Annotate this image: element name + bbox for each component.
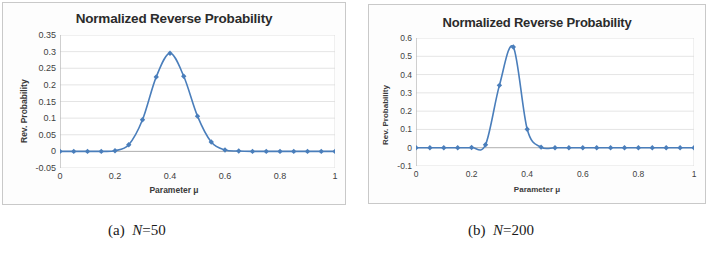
caption-b-index: (b) xyxy=(468,222,486,238)
y-axis-label-b: Rev. Probability xyxy=(381,85,390,145)
x-axis-tick-label: 0.8 xyxy=(632,169,644,179)
plot-area-b: -0.100.10.20.30.40.50.600.20.40.60.81 xyxy=(416,38,694,166)
x-axis-label-b: Parameter μ xyxy=(369,185,705,194)
y-axis-tick-label: 0 xyxy=(51,146,56,156)
y-axis-tick-label: 0.3 xyxy=(43,47,56,57)
x-axis-tick-label: 0 xyxy=(57,171,62,181)
x-axis-tick-label: 0.4 xyxy=(164,171,177,181)
y-axis-tick-label: 0.1 xyxy=(43,113,56,123)
chart-svg xyxy=(60,35,335,168)
chart-svg xyxy=(416,38,694,166)
x-axis-label-a: Parameter μ xyxy=(3,185,345,195)
y-axis-tick-label: 0.25 xyxy=(38,63,56,73)
x-axis-tick-label: 0.6 xyxy=(219,171,232,181)
plot-area-a: -0.0500.050.10.150.20.250.30.3500.20.40.… xyxy=(60,35,335,168)
y-axis-tick-label: -0.1 xyxy=(397,161,412,171)
caption-a-variable: N xyxy=(132,222,142,238)
x-axis-tick-label: 1 xyxy=(332,171,337,181)
y-axis-tick-label: 0.3 xyxy=(400,88,412,98)
figure-two-panel-charts: Normalized Reverse Probability Rev. Prob… xyxy=(0,0,706,259)
y-axis-tick-label: 0.6 xyxy=(400,33,412,43)
y-axis-tick-label: 0.5 xyxy=(400,51,412,61)
x-axis-tick-label: 0.2 xyxy=(109,171,122,181)
chart-panel-a: Normalized Reverse Probability Rev. Prob… xyxy=(2,2,346,205)
y-axis-tick-label: 0.4 xyxy=(400,70,412,80)
caption-a-index: (a) xyxy=(108,222,125,238)
x-axis-tick-label: 0.6 xyxy=(577,169,589,179)
chart-title-a: Normalized Reverse Probability xyxy=(3,11,345,26)
y-axis-tick-label: 0.15 xyxy=(38,97,56,107)
y-axis-tick-label: -0.05 xyxy=(35,163,56,173)
y-axis-tick-label: 0.2 xyxy=(400,106,412,116)
y-axis-tick-label: 0.05 xyxy=(38,130,56,140)
y-axis-tick-label: 0.2 xyxy=(43,80,56,90)
caption-a: (a) N=50 xyxy=(108,222,166,239)
caption-b-variable: N xyxy=(493,222,503,238)
chart-title-b: Normalized Reverse Probability xyxy=(369,15,705,30)
y-axis-tick-label: 0.35 xyxy=(38,30,56,40)
y-axis-label-a: Rev. Probability xyxy=(19,79,29,143)
caption-a-value: =50 xyxy=(142,222,165,238)
x-axis-tick-label: 0.4 xyxy=(521,169,533,179)
y-axis-tick-label: 0 xyxy=(407,143,412,153)
x-axis-tick-label: 0.2 xyxy=(466,169,478,179)
y-axis-tick-label: 0.1 xyxy=(400,124,412,134)
caption-b-value: =200 xyxy=(503,222,534,238)
chart-panel-b: Normalized Reverse Probability Rev. Prob… xyxy=(368,4,706,204)
x-axis-tick-label: 0 xyxy=(414,169,419,179)
x-axis-tick-label: 1 xyxy=(692,169,697,179)
caption-b: (b) N=200 xyxy=(468,222,534,239)
x-axis-tick-label: 0.8 xyxy=(274,171,287,181)
